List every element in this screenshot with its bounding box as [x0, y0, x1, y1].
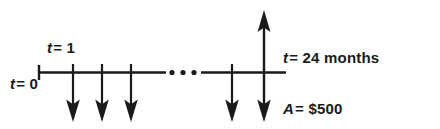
axis-break-dot-1 — [169, 70, 174, 75]
label-amount-variable: A — [283, 100, 295, 117]
cash-flow-timeline-diagram: t= 1 t= 0 t= 24 months A= $500 — [0, 0, 440, 129]
label-t-equals-24-months: t= 24 months — [283, 50, 379, 65]
label-amount-equals: = — [295, 100, 304, 117]
label-t-equals-24-value: 24 months — [303, 49, 380, 66]
label-t-equals-1-equals: = — [53, 39, 62, 56]
label-t-equals-0: t= 0 — [10, 76, 38, 91]
axis-break-dot-3 — [191, 70, 196, 75]
label-t-equals-0-value: 0 — [30, 75, 39, 92]
label-t-equals-0-equals: = — [16, 75, 25, 92]
net-double-arrow — [257, 10, 271, 122]
label-t-equals-24-equals: = — [289, 49, 298, 66]
label-t-equals-1: t= 1 — [47, 40, 75, 55]
label-t-equals-1-value: 1 — [67, 39, 76, 56]
axis-break-dot-2 — [180, 70, 185, 75]
label-amount-value: $500 — [308, 100, 342, 117]
label-amount: A= $500 — [283, 101, 343, 116]
